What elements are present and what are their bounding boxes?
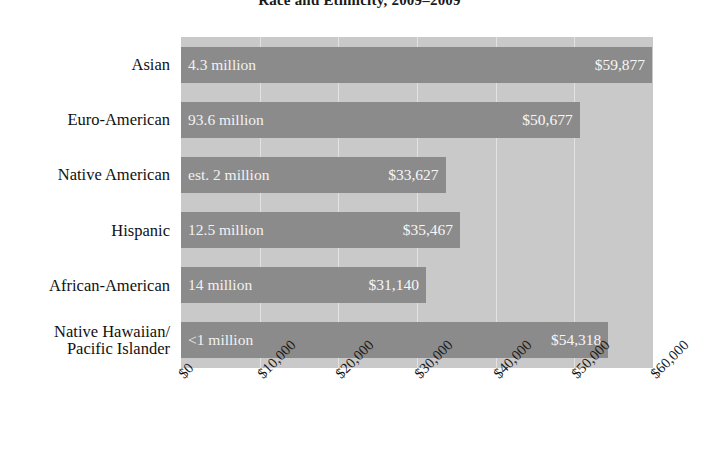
bar: 14 million$31,140 bbox=[181, 267, 426, 303]
bar-row: 14 million$31,140 bbox=[181, 267, 653, 303]
bar: 93.6 million$50,677 bbox=[181, 102, 580, 138]
y-axis-label: Asian bbox=[132, 56, 171, 73]
y-axis-label: African-American bbox=[49, 277, 170, 294]
y-axis-label: Native Hawaiian/ Pacific Islander bbox=[54, 323, 170, 357]
bar-population-label: 4.3 million bbox=[188, 56, 256, 74]
gridline bbox=[496, 37, 497, 368]
x-axis-tick-label: $60,000 bbox=[647, 337, 692, 382]
bar-row: <1 million$54,318 bbox=[181, 322, 653, 358]
bar-population-label: 12.5 million bbox=[188, 221, 264, 239]
bar-value-label: $31,140 bbox=[369, 276, 419, 294]
bar: <1 million$54,318 bbox=[181, 322, 608, 358]
y-axis-category-labels: AsianEuro-AmericanNative AmericanHispani… bbox=[0, 37, 176, 368]
bar-value-label: $33,627 bbox=[388, 166, 438, 184]
bar-row: 12.5 million$35,467 bbox=[181, 212, 653, 248]
bar-population-label: 93.6 million bbox=[188, 111, 264, 129]
chart-plot-area: 4.3 million$59,87793.6 million$50,677est… bbox=[181, 37, 653, 368]
bar-row: 93.6 million$50,677 bbox=[181, 102, 653, 138]
y-axis-label: Euro-American bbox=[67, 111, 170, 128]
x-axis-tick-labels: $0$10,000$20,000$30,000$40,000$50,000$60… bbox=[181, 370, 719, 465]
bar-population-label: 14 million bbox=[188, 276, 252, 294]
y-axis-label: Native American bbox=[58, 166, 170, 183]
bar-population-label: est. 2 million bbox=[188, 166, 269, 184]
bar: 4.3 million$59,877 bbox=[181, 47, 652, 83]
bar-population-label: <1 million bbox=[188, 331, 253, 349]
y-axis-label: Hispanic bbox=[111, 222, 170, 239]
gridline bbox=[338, 37, 339, 368]
bar-value-label: $35,467 bbox=[403, 221, 453, 239]
gridline bbox=[574, 37, 575, 368]
bar-row: est. 2 million$33,627 bbox=[181, 157, 653, 193]
gridline bbox=[417, 37, 418, 368]
bar: est. 2 million$33,627 bbox=[181, 157, 446, 193]
chart-title: Race and Ethnicity, 2009–2009 bbox=[0, 0, 719, 9]
gridline bbox=[260, 37, 261, 368]
bar-value-label: $50,677 bbox=[522, 111, 572, 129]
bar: 12.5 million$35,467 bbox=[181, 212, 460, 248]
bar-value-label: $59,877 bbox=[595, 56, 645, 74]
bar-row: 4.3 million$59,877 bbox=[181, 47, 653, 83]
